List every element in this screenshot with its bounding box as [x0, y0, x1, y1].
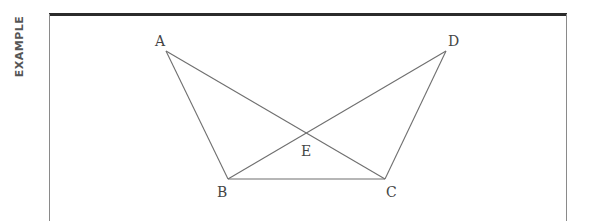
geometry-figure: A D E B C — [0, 0, 595, 221]
point-label-e: E — [301, 143, 311, 159]
point-label-b: B — [217, 184, 227, 200]
segments — [166, 51, 446, 179]
point-label-a: A — [154, 33, 166, 49]
segment-db — [228, 51, 446, 179]
point-label-c: C — [386, 184, 397, 200]
segment-ab — [166, 51, 228, 179]
point-label-d: D — [448, 33, 459, 49]
segment-dc — [385, 51, 446, 179]
segment-ac — [166, 51, 385, 179]
